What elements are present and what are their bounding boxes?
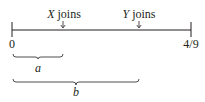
- timeline-diagram: 0 4/9 X joins Y joins a b: [0, 0, 205, 102]
- event-y-text: joins: [129, 7, 156, 21]
- brace-a: [13, 54, 63, 59]
- event-x-arrow-icon: [61, 21, 65, 28]
- brace-a-label: a: [35, 61, 41, 75]
- event-y-arrow-icon: [137, 21, 141, 28]
- event-y-label: Y joins: [122, 7, 155, 21]
- event-x-text: joins: [55, 7, 82, 21]
- brace-b-label: b: [73, 85, 79, 99]
- end-label: 4/9: [183, 37, 198, 51]
- event-x-label: X joins: [46, 7, 81, 21]
- start-label: 0: [9, 37, 15, 51]
